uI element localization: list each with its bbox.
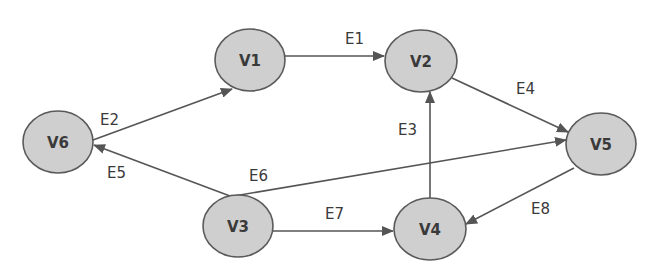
edge-label-e8: E8: [531, 200, 550, 218]
edge-e8-arrow: [466, 168, 574, 224]
edge-e4-arrow: [452, 78, 568, 132]
edges: E1 E2 E3 E4 E5 E6 E7 E8: [93, 30, 574, 231]
node-v3-label: V3: [227, 218, 249, 236]
node-v1[interactable]: V1: [215, 29, 285, 91]
edge-label-e4: E4: [516, 80, 535, 98]
edge-label-e7: E7: [325, 205, 344, 223]
node-v2[interactable]: V2: [385, 30, 457, 92]
node-v1-label: V1: [239, 52, 261, 70]
node-v5[interactable]: V5: [566, 113, 636, 175]
edge-label-e5: E5: [107, 164, 126, 182]
node-v4[interactable]: V4: [394, 198, 466, 260]
edge-label-e1: E1: [345, 30, 364, 48]
edge-label-e6: E6: [249, 167, 268, 185]
node-v2-label: V2: [410, 53, 432, 71]
node-v4-label: V4: [419, 221, 441, 239]
directed-graph-diagram: E1 E2 E3 E4 E5 E6 E7 E8 V1 V2: [0, 0, 657, 276]
node-v6[interactable]: V6: [23, 111, 93, 173]
node-v3[interactable]: V3: [203, 195, 273, 257]
edge-label-e3: E3: [398, 121, 417, 139]
edge-label-e2: E2: [100, 111, 119, 129]
node-v6-label: V6: [47, 134, 69, 152]
node-v5-label: V5: [590, 136, 612, 154]
edge-e6-arrow: [234, 140, 566, 196]
